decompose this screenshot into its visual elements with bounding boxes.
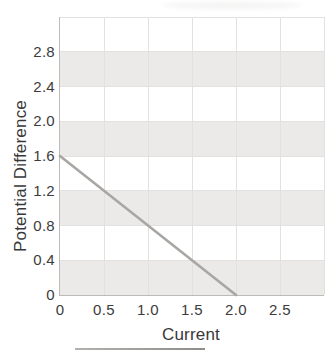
x-tick-label: 1.5	[181, 302, 203, 318]
plot-area	[59, 17, 324, 296]
x-tick-label: 0.5	[93, 302, 115, 318]
x-tick-label: 2.0	[225, 302, 247, 318]
y-tick-label: 2.4	[0, 78, 55, 96]
series-plot	[60, 17, 324, 295]
chart-stage: Potential Difference Current 00.40.81.21…	[0, 0, 334, 356]
cropped-legend-border	[75, 348, 205, 350]
y-tick-label: 2.0	[0, 112, 55, 130]
y-tick-label: 0.4	[0, 251, 55, 269]
y-tick-label: 0.8	[0, 217, 55, 235]
scan-smudge	[162, 2, 302, 9]
x-axis-title: Current	[162, 325, 220, 345]
x-tick-label: 1.0	[137, 302, 159, 318]
y-tick-label: 1.6	[0, 147, 55, 165]
series-line	[60, 156, 236, 295]
x-tick-label: 2.5	[269, 302, 291, 318]
y-tick-label: 0	[0, 286, 55, 304]
y-tick-label: 2.8	[0, 43, 55, 61]
y-tick-label: 1.2	[0, 182, 55, 200]
x-tick-label: 0	[56, 302, 65, 318]
